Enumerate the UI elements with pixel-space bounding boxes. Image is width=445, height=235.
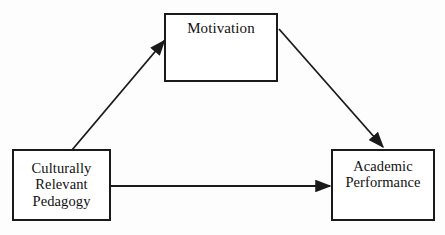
node-academic-performance-label: Academic Performance [345,158,420,190]
node-motivation: Motivation [164,13,278,82]
path-diagram: Motivation Culturally Relevant Pedagogy … [0,0,445,235]
edge-motivation-to-academic [279,29,383,147]
node-academic-performance: Academic Performance [331,149,435,221]
node-motivation-label: Motivation [187,20,255,37]
node-culturally-relevant-pedagogy: Culturally Relevant Pedagogy [12,149,111,221]
node-culturally-relevant-pedagogy-label: Culturally Relevant Pedagogy [32,160,92,209]
edge-pedagogy-to-motivation [72,41,165,151]
